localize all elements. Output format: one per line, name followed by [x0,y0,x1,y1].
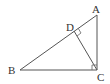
label-a: A [92,3,100,15]
segment-cd [74,31,97,70]
segment-ab [20,15,97,70]
label-d: D [66,21,74,33]
triangle-diagram: A D B C [0,0,110,84]
label-c: C [97,71,104,83]
label-b: B [8,64,15,76]
